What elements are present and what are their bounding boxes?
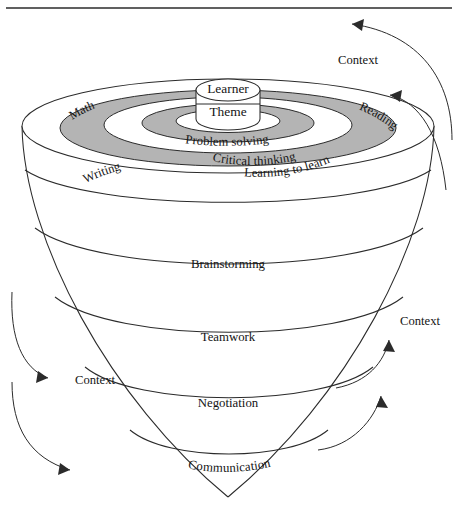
context-arrow-left-lower-head <box>58 463 70 475</box>
context-arrow-left-upper <box>12 292 48 378</box>
context-arrow-lower-right-head <box>376 396 388 408</box>
core-label-learner: Learner <box>207 81 249 96</box>
context-arrow-middle-right-head <box>383 340 395 352</box>
context-arrow-top-head <box>352 19 364 31</box>
band-label-negotiation: Negotiation <box>198 396 259 410</box>
diagram-canvas: Problem solving Critical thinking Learni… <box>0 0 458 510</box>
context-arrow-left-lower <box>12 382 70 470</box>
context-arrow-middle-right <box>336 340 389 388</box>
band-divider-3 <box>55 297 403 332</box>
context-label-top-right: Context <box>338 53 378 67</box>
context-label-middle-right: Context <box>400 314 440 328</box>
funnel-left-side <box>22 126 228 497</box>
context-arrow-left-upper-head <box>36 371 48 383</box>
context-arrow-lower-right <box>318 396 381 450</box>
band-divider-5 <box>130 430 328 454</box>
band-label-communication: Communication <box>187 455 272 474</box>
funnel-right-side <box>228 126 434 497</box>
band-label-teamwork: Teamwork <box>201 330 256 344</box>
core-label-theme: Theme <box>209 104 246 119</box>
band-divider-4 <box>85 367 373 398</box>
context-label-left: Context <box>75 373 115 387</box>
funnel-diagram-svg: Problem solving Critical thinking Learni… <box>0 0 458 510</box>
band-label-brainstorming: Brainstorming <box>191 257 266 271</box>
